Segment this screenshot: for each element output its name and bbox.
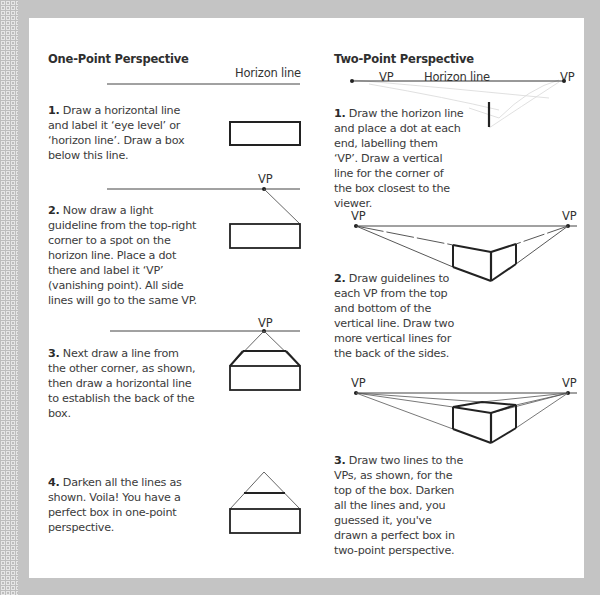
one-point-diagram-3 bbox=[110, 329, 300, 390]
one-point-diagram-4 bbox=[230, 472, 300, 533]
one-point-diagram-2 bbox=[107, 187, 300, 248]
two-point-diagram-2 bbox=[354, 224, 577, 281]
perspective-diagrams bbox=[29, 18, 584, 578]
dotted-margin-pattern bbox=[0, 0, 18, 595]
two-point-diagram-3 bbox=[354, 391, 577, 443]
two-point-diagram-1 bbox=[350, 79, 566, 128]
worksheet-page: One-Point Perspective Horizon line 1. Dr… bbox=[29, 18, 584, 578]
one-point-diagram-1 bbox=[107, 84, 300, 145]
